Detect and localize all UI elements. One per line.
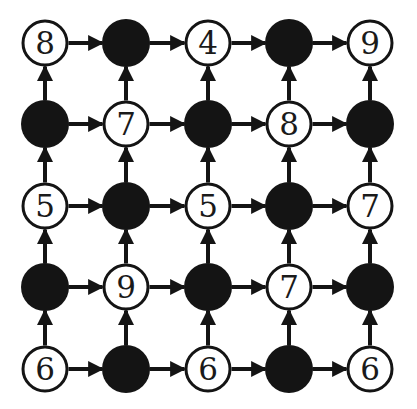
- filled-circle-icon: [346, 100, 394, 148]
- node-label: 9: [360, 25, 380, 61]
- filled-circle-icon: [265, 19, 313, 67]
- open-node: 9: [104, 265, 148, 309]
- filled-circle-icon: [102, 182, 150, 230]
- open-node: 8: [267, 102, 311, 146]
- open-node: 9: [348, 21, 392, 65]
- filled-circle-icon: [102, 345, 150, 393]
- filled-node: [265, 182, 313, 230]
- open-node: 7: [104, 102, 148, 146]
- open-node: 6: [23, 347, 67, 391]
- node-label: 5: [198, 188, 218, 224]
- filled-node: [265, 19, 313, 67]
- node-label: 6: [360, 351, 380, 387]
- filled-circle-icon: [21, 263, 69, 311]
- filled-node: [184, 100, 232, 148]
- open-node: 6: [348, 347, 392, 391]
- node-label: 4: [198, 25, 218, 61]
- filled-node: [21, 263, 69, 311]
- open-node: 7: [267, 265, 311, 309]
- node-label: 8: [35, 25, 55, 61]
- node-label: 7: [279, 269, 299, 305]
- filled-circle-icon: [184, 100, 232, 148]
- filled-node: [265, 345, 313, 393]
- filled-node: [346, 263, 394, 311]
- grid-diagram: 8497855797666: [0, 0, 417, 409]
- open-node: 5: [186, 184, 230, 228]
- node-label: 5: [35, 188, 55, 224]
- filled-circle-icon: [265, 182, 313, 230]
- filled-node: [346, 100, 394, 148]
- filled-circle-icon: [102, 19, 150, 67]
- open-node: 5: [23, 184, 67, 228]
- node-label: 8: [279, 106, 299, 142]
- open-node: 4: [186, 21, 230, 65]
- filled-node: [102, 19, 150, 67]
- filled-node: [102, 182, 150, 230]
- filled-circle-icon: [21, 100, 69, 148]
- filled-circle-icon: [346, 263, 394, 311]
- filled-circle-icon: [265, 345, 313, 393]
- filled-node: [184, 263, 232, 311]
- open-node: 8: [23, 21, 67, 65]
- open-node: 6: [186, 347, 230, 391]
- filled-node: [102, 345, 150, 393]
- node-label: 7: [116, 106, 136, 142]
- node-label: 6: [198, 351, 218, 387]
- filled-circle-icon: [184, 263, 232, 311]
- filled-node: [21, 100, 69, 148]
- node-label: 6: [35, 351, 55, 387]
- node-label: 7: [360, 188, 380, 224]
- node-label: 9: [116, 269, 136, 305]
- open-node: 7: [348, 184, 392, 228]
